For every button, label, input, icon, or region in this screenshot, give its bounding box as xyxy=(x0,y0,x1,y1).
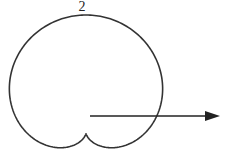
cardioid-diagram: 2 xyxy=(0,0,228,151)
arrowhead-icon xyxy=(205,111,220,121)
top-value-label: 2 xyxy=(79,0,86,14)
cardioid-curve xyxy=(9,15,162,148)
